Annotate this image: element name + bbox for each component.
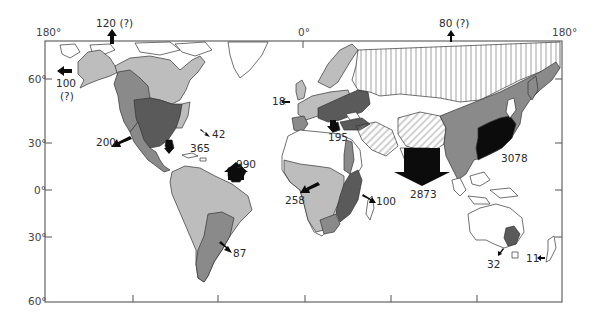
north-america — [60, 42, 268, 172]
lat-label-60n: 60° — [28, 74, 47, 85]
lat-label-0: 0° — [34, 185, 46, 196]
lon-label-right: 180° — [552, 27, 577, 38]
flow-label-south-asia: 2873 — [410, 189, 437, 200]
flow-label-australia: 32 — [487, 259, 500, 270]
flow-label-new-zealand: 11 — [526, 253, 539, 264]
flow-label-arctic-north-america: 120 (?) — [96, 18, 133, 29]
flow-label-south-america-atlantic: 87 — [233, 248, 246, 259]
south-america — [170, 164, 252, 282]
flow-label-east-africa: 100 — [376, 196, 396, 207]
flow-label-north-america-atlantic: 42 — [212, 129, 225, 140]
flow-label-north-america-pacific: 200 — [96, 137, 116, 148]
arrow-australia — [498, 248, 504, 256]
flow-label-congo: 258 — [285, 195, 305, 206]
lat-label-30n: 30° — [28, 138, 47, 149]
lon-label-center: 0° — [298, 27, 310, 38]
australia-nz — [468, 204, 556, 262]
flow-label-amazon: 990 — [236, 159, 256, 170]
arrow-north-america-arctic — [107, 29, 117, 44]
flow-label-alaska-west-1: 100 — [56, 78, 76, 89]
arrow-siberia-arctic — [447, 30, 455, 42]
flow-label-mediterranean: 195 — [328, 132, 348, 143]
arrow-north-america-atlantic — [200, 129, 210, 137]
arrow-alaska-west — [57, 66, 72, 76]
lat-label-30s: 30° — [28, 232, 47, 243]
flow-label-europe-atlantic: 18 — [272, 96, 285, 107]
flow-label-siberia-arctic: 80 (?) — [439, 18, 469, 29]
lat-label-60s: 60° — [28, 296, 47, 307]
flow-label-gulf-of-mexico: 365 — [190, 143, 210, 154]
lon-label-left: 180° — [36, 27, 61, 38]
flow-label-alaska-west-2: (?) — [60, 91, 74, 102]
flow-label-east-asia: 3078 — [501, 153, 528, 164]
